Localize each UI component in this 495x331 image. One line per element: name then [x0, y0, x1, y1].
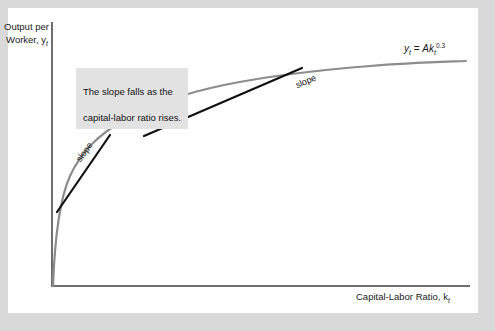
- y-axis-label-line2: Worker, y: [6, 34, 46, 45]
- equation-exponent: 0.3: [436, 42, 445, 49]
- x-axis-label-text: Capital-Labor Ratio, k: [356, 291, 448, 302]
- x-axis-label: Capital-Labor Ratio, kt: [356, 291, 450, 307]
- callout-line-2: capital-labor ratio rises.: [83, 112, 181, 123]
- y-axis-label-line1: Output per: [4, 21, 49, 32]
- x-axis-label-subscript: t: [448, 297, 450, 304]
- y-axis-label: Output per Worker, yt: [4, 21, 48, 50]
- equation-rhs: Ak: [422, 43, 434, 54]
- equation-operator: =: [411, 43, 422, 54]
- figure-container: Output per Worker, yt Capital-Labor Rati…: [0, 0, 495, 331]
- callout-line-1: The slope falls as the: [83, 86, 173, 97]
- equation-label: yt = Akt0.3: [404, 42, 445, 56]
- y-axis-label-subscript: t: [46, 39, 48, 46]
- callout-textbox: The slope falls as the capital-labor rat…: [76, 68, 188, 129]
- equation-rhs-subscript: t: [434, 49, 436, 56]
